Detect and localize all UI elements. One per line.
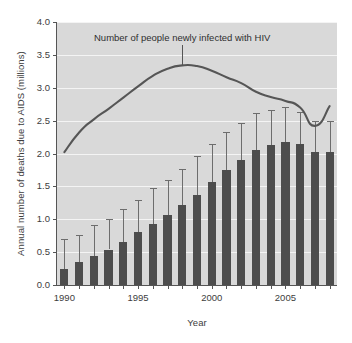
bar [119, 242, 127, 285]
bar [75, 262, 83, 285]
error-bar-cap [238, 123, 245, 124]
bar [149, 224, 157, 285]
error-bar-cap [76, 235, 83, 236]
error-bar-whisker [226, 132, 227, 169]
error-bar-cap [223, 132, 230, 133]
y-tick-label: 3.5 [24, 49, 50, 60]
chart-annotation-label: Number of people newly infected with HIV [94, 32, 270, 43]
error-bar-cap [135, 200, 142, 201]
error-bar-cap [312, 121, 319, 122]
error-bar-whisker [79, 235, 80, 262]
x-tick-marks [65, 285, 331, 289]
y-tick-label: 2.5 [24, 115, 50, 126]
x-tick-label: 1990 [44, 292, 84, 303]
error-bar-whisker [64, 239, 65, 269]
error-bar-whisker [153, 188, 154, 224]
gridline [57, 154, 337, 155]
y-tick-label: 4.0 [24, 16, 50, 27]
error-bar-whisker [256, 113, 257, 150]
error-bar-cap [209, 144, 216, 145]
bar [237, 160, 245, 285]
error-bar-whisker [123, 209, 124, 241]
gridline [57, 88, 337, 89]
hiv-infections-line [64, 65, 329, 152]
error-bar-cap [268, 110, 275, 111]
bar [326, 152, 334, 285]
error-bar-whisker [315, 121, 316, 153]
y-tick-label: 1.0 [24, 213, 50, 224]
gridline [57, 55, 337, 56]
error-bar-whisker [109, 219, 110, 249]
error-bar-whisker [212, 144, 213, 181]
bar [311, 152, 319, 285]
error-bar-cap [165, 180, 172, 181]
chart-figure: Annual number of deaths due to AIDS (mil… [0, 0, 352, 343]
gridline [57, 121, 337, 122]
x-axis-title: Year [57, 317, 337, 328]
error-bar-whisker [271, 110, 272, 145]
error-bar-cap [120, 209, 127, 210]
error-bar-cap [297, 112, 304, 113]
error-bar-cap [282, 107, 289, 108]
bar [60, 269, 68, 285]
error-bar-whisker [94, 225, 95, 257]
error-bar-whisker [330, 121, 331, 153]
error-bar-whisker [241, 123, 242, 160]
annotation-leader-line [182, 45, 183, 65]
gridline [57, 22, 337, 23]
bar [252, 150, 260, 285]
x-tick-label: 2005 [265, 292, 305, 303]
bar [104, 250, 112, 286]
error-bar-cap [327, 121, 334, 122]
error-bar-whisker [197, 156, 198, 195]
bar [193, 195, 201, 285]
error-bar-whisker [168, 180, 169, 216]
x-tick-label: 1995 [118, 292, 158, 303]
y-tick-label: 0.5 [24, 246, 50, 257]
bar [267, 145, 275, 285]
bar [178, 205, 186, 285]
y-tick-label: 2.0 [24, 148, 50, 159]
bar [208, 182, 216, 285]
y-tick-label: 0.0 [24, 279, 50, 290]
error-bar-cap [194, 156, 201, 157]
bar [163, 215, 171, 285]
y-tick-label: 3.0 [24, 82, 50, 93]
plot-area [57, 22, 337, 285]
bar [222, 170, 230, 285]
error-bar-cap [150, 188, 157, 189]
error-bar-whisker [182, 169, 183, 205]
y-tick-label: 1.5 [24, 180, 50, 191]
error-bar-cap [179, 169, 186, 170]
error-bar-cap [253, 113, 260, 114]
x-tick-label: 2000 [192, 292, 232, 303]
error-bar-whisker [138, 200, 139, 232]
error-bar-cap [91, 225, 98, 226]
error-bar-cap [61, 239, 68, 240]
bar [134, 232, 142, 285]
error-bar-cap [106, 219, 113, 220]
error-bar-whisker [285, 107, 286, 141]
bar [281, 142, 289, 285]
error-bar-whisker [300, 112, 301, 144]
bar [90, 256, 98, 285]
bar [296, 144, 304, 285]
